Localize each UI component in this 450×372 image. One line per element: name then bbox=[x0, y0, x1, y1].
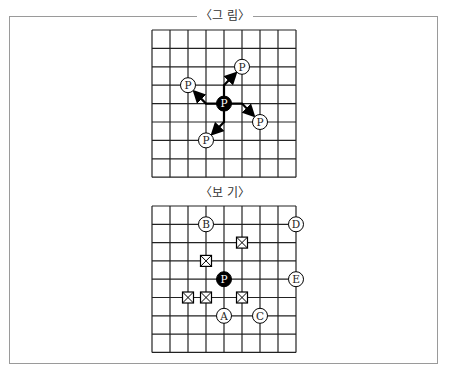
option-point-a: A bbox=[217, 308, 232, 323]
option-point-c: C bbox=[253, 308, 268, 323]
svg-text:B: B bbox=[202, 218, 210, 230]
target-piece: P bbox=[181, 78, 196, 93]
diagram-canvas: PPPPPABCDEP bbox=[0, 0, 450, 372]
svg-text:P: P bbox=[220, 273, 227, 285]
center-piece: P bbox=[217, 96, 232, 111]
svg-text:P: P bbox=[256, 116, 263, 128]
blocked-point bbox=[237, 292, 248, 303]
svg-text:C: C bbox=[256, 310, 264, 322]
option-point-e: E bbox=[289, 272, 304, 287]
svg-text:P: P bbox=[184, 79, 191, 91]
option-point-b: B bbox=[199, 217, 214, 232]
blocked-point bbox=[237, 237, 248, 248]
target-piece: P bbox=[253, 115, 268, 130]
svg-text:A: A bbox=[219, 310, 228, 322]
target-piece: P bbox=[199, 133, 214, 148]
blocked-point bbox=[183, 292, 194, 303]
svg-text:P: P bbox=[220, 97, 227, 109]
blocked-point bbox=[201, 255, 212, 266]
blocked-point bbox=[201, 292, 212, 303]
center-piece: P bbox=[217, 272, 232, 287]
target-piece: P bbox=[235, 59, 250, 74]
svg-text:D: D bbox=[292, 218, 300, 230]
option-point-d: D bbox=[289, 217, 304, 232]
svg-text:P: P bbox=[238, 61, 245, 73]
svg-text:P: P bbox=[202, 134, 209, 146]
svg-text:E: E bbox=[292, 273, 300, 285]
